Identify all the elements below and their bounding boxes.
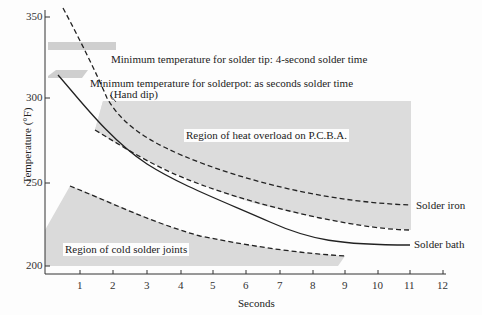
annotation-hand-dip: (Hand dip) (110, 89, 158, 100)
y-tick-350: 350 (26, 11, 43, 22)
y-axis-title: Temperature (°F) (22, 91, 33, 201)
x-axis-title: Seconds (238, 298, 275, 309)
x-tick-5: 5 (210, 280, 216, 291)
legend-solder-iron: Solder iron (416, 200, 465, 211)
solderpot-marker (48, 70, 88, 78)
x-tick-11: 11 (404, 280, 415, 291)
plot-area (0, 0, 482, 315)
legend-solder-bath: Solder bath (414, 239, 464, 250)
chart: 350 300 250 200 1 2 3 4 5 6 7 8 9 10 11 … (0, 0, 482, 315)
x-tick-6: 6 (243, 280, 249, 291)
x-tick-3: 3 (144, 280, 150, 291)
y-tick-200: 200 (26, 260, 43, 271)
x-tick-12: 12 (437, 280, 448, 291)
heat-overload-fill (95, 101, 411, 230)
x-tick-10: 10 (372, 280, 383, 291)
x-tick-4: 4 (178, 280, 184, 291)
x-tick-1: 1 (77, 280, 83, 291)
x-tick-9: 9 (342, 280, 348, 291)
annotation-cold-solder: Region of cold solder joints (63, 243, 189, 256)
x-tick-7: 7 (277, 280, 283, 291)
x-tick-2: 2 (110, 280, 116, 291)
annotation-heat-overload: Region of heat overload on P.C.B.A. (184, 129, 349, 142)
x-tick-8: 8 (310, 280, 316, 291)
annotation-min-solder-tip: Minimum temperature for solder tip: 4-se… (111, 54, 367, 65)
x-ticks (80, 270, 443, 274)
